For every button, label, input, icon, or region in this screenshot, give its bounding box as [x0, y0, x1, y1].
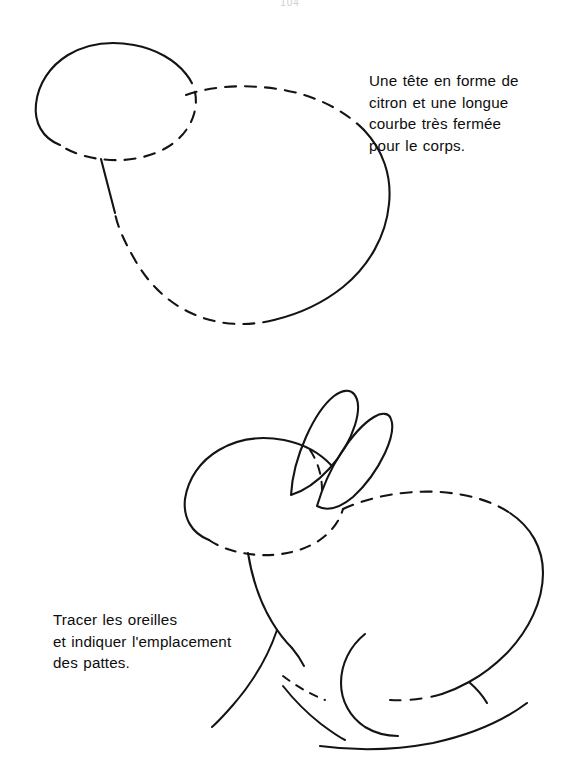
rabbit-head-solid: [185, 438, 332, 540]
head-outline-solid: [36, 43, 186, 145]
caption-ears-legs: Tracer les oreilles et indiquer l'emplac…: [53, 609, 283, 674]
rabbit-back-solid: [469, 513, 543, 682]
neck-line: [101, 159, 115, 213]
rabbit-rear-joint: [469, 682, 487, 703]
rabbit-head-dashed: [209, 509, 343, 555]
rabbit-leg-marker-dashed: [283, 676, 325, 700]
figure-step-2: [185, 391, 543, 749]
rabbit-belly-dashed: [390, 694, 442, 700]
rabbit-back-dashed: [343, 492, 510, 513]
figure-step-1: [36, 43, 390, 324]
body-outline-dashed-upper: [186, 86, 364, 130]
drawing-page: 104: [0, 0, 582, 778]
rabbit-rear-bottom: [442, 682, 469, 694]
body-outline-solid-right: [274, 130, 390, 320]
rabbit-front-leg-joint: [292, 648, 304, 666]
rabbit-haunch-arc: [341, 634, 398, 736]
head-outline-dashed: [60, 74, 196, 160]
body-outline-dashed-lower: [115, 213, 274, 324]
caption-head-body: Une tête en forme de citron et une longu…: [369, 70, 569, 156]
rabbit-foot-line: [320, 703, 527, 749]
